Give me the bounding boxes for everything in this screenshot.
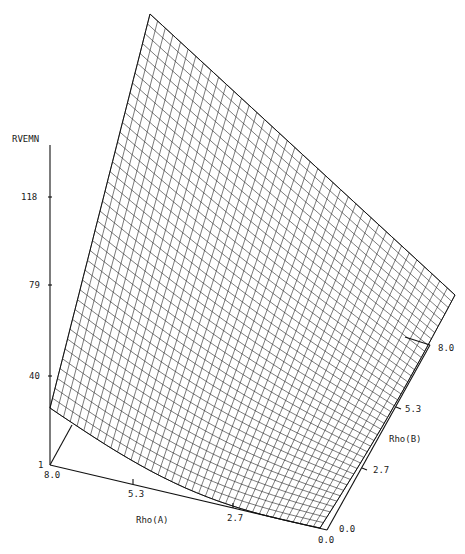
surface-outline [50, 14, 455, 528]
x-tick-0: 0.0 [318, 535, 334, 545]
y-tick-0: 0.0 [339, 524, 355, 534]
z-tick-79: 79 [29, 280, 40, 290]
x-tick-2-7: 2.7 [227, 513, 243, 523]
surface-mesh [50, 14, 455, 528]
y-tick-5-3: 5.3 [405, 404, 421, 414]
y-axis-label: Rho(B) [389, 434, 422, 444]
z-tick-40: 40 [29, 371, 40, 381]
back-edge-left [50, 425, 72, 465]
x-tick-5-3: 5.3 [128, 489, 144, 499]
surface-plot: RVEMN 118 79 40 1 8.0 5.3 2.7 0.0 Rho(A)… [0, 0, 465, 554]
z-tick-1: 1 [38, 460, 43, 470]
x-tick-8: 8.0 [44, 470, 60, 480]
x-axis-line [50, 465, 327, 530]
x-axis-label: Rho(A) [136, 515, 169, 525]
z-tick-118: 118 [21, 192, 37, 202]
y-tick-2-7: 2.7 [373, 465, 389, 475]
y-tick-8: 8.0 [438, 343, 454, 353]
z-axis-label: RVEMN [12, 134, 39, 144]
